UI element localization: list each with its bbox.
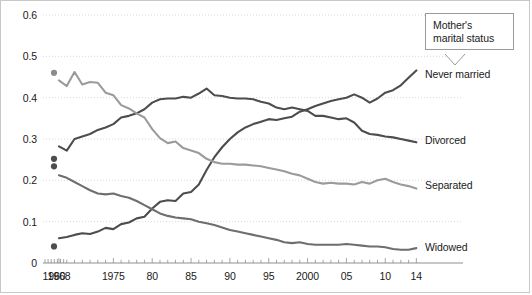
x-axis-tick-label: 14 [392,271,440,281]
y-axis-tick-label: 0.4 [7,93,37,103]
callout-box: Mother's marital status [425,13,514,50]
series-label-never-married: Never married [425,69,490,80]
x-axis-ticks [45,258,416,263]
callout-line-1: Mother's [433,19,507,32]
gridlines [43,15,463,222]
callout-line-2: marital status [433,32,507,45]
y-axis-tick-label: 0.6 [7,10,37,20]
y-axis-tick-label: 0.1 [7,217,37,227]
series-label-widowed: Widowed [425,242,468,253]
chart-container: 0.60.50.40.30.20.10 19601968197580859095… [0,0,530,293]
x-axis-tick-label: 1968 [35,271,83,281]
y-axis-tick-label: 0.3 [7,134,37,144]
series-label-separated: Separated [425,180,473,191]
callout-pointer-icon [445,54,465,65]
y-axis-tick-label: 0.5 [7,51,37,61]
y-axis-tick-label: 0.2 [7,175,37,185]
isolated-1960-points [51,70,57,250]
y-axis-tick-label: 0 [7,258,37,268]
series-label-divorced: Divorced [425,135,466,146]
